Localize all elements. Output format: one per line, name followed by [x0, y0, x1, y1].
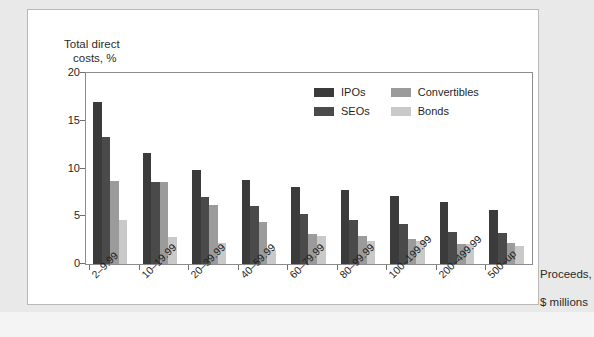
legend-swatch [391, 88, 411, 97]
legend-label: Convertibles [418, 86, 493, 98]
y-axis-tick-label: 15 [58, 114, 80, 126]
bar [341, 190, 350, 264]
bar [390, 196, 399, 264]
legend-label: Bonds [418, 105, 493, 117]
x-axis-tick-mark [436, 265, 437, 270]
bar [192, 170, 201, 264]
y-axis-tick-label: 20 [58, 66, 80, 78]
y-axis: 05101520 [58, 72, 85, 265]
y-axis-tick-label: 10 [58, 162, 80, 174]
bar [102, 137, 111, 264]
x-axis-tick-mark [139, 265, 140, 270]
legend-label: IPOs [341, 86, 384, 98]
x-axis-tick-mark [337, 265, 338, 270]
y-axis-title-line1: Total direct [64, 38, 120, 50]
bar [291, 187, 300, 264]
bar [93, 102, 102, 264]
legend-swatch [314, 107, 334, 116]
bar-group [242, 73, 276, 264]
bar-group [489, 73, 523, 264]
x-axis-title-line2: $ millions [540, 296, 588, 308]
bar [143, 153, 152, 264]
bar-group [143, 73, 177, 264]
chart-legend: IPOsConvertiblesSEOsBonds [314, 86, 493, 117]
bar-group [192, 73, 226, 264]
bar [489, 210, 498, 264]
y-axis-title-line2: costs, % [64, 51, 120, 65]
legend-swatch [391, 107, 411, 116]
x-axis-title-line1: Proceeds, [540, 268, 592, 280]
y-axis-tick-label: 5 [58, 209, 80, 221]
caption-strip [0, 312, 594, 337]
legend-swatch [314, 88, 334, 97]
bar [440, 202, 449, 264]
bar-group [93, 73, 127, 264]
legend-label: SEOs [341, 105, 384, 117]
bar [242, 180, 251, 264]
x-axis-title: Proceeds, $ millions [540, 253, 592, 309]
figure-card: Total direct costs, % 05101520 2–9.9910–… [27, 9, 539, 305]
y-axis-tick-label: 0 [58, 257, 80, 269]
x-axis-tick-mark [238, 265, 239, 270]
